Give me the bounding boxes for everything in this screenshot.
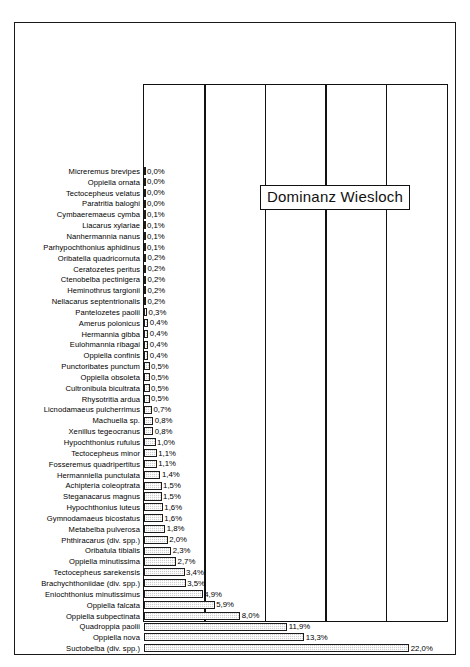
- bar-value-label: 0,5%: [151, 384, 169, 393]
- bar-category-label: Oppiella subpectinata: [0, 612, 140, 621]
- bar: [144, 167, 146, 175]
- bar-value-label: 11,9%: [289, 622, 311, 631]
- bar-value-label: 5,9%: [216, 600, 234, 609]
- bar-category-label: Parhypochthonius aphidinus: [0, 243, 140, 252]
- bar-row: Liacarus xylariae0,1%: [0, 220, 470, 231]
- bar-container: 0,5%: [144, 362, 169, 370]
- bar-row: Eulohmannia ribagai0,4%: [0, 340, 470, 351]
- bar: [144, 514, 163, 522]
- bar-row: Rhysotritia ardua0,5%: [0, 394, 470, 405]
- bar-container: 1,6%: [144, 503, 183, 511]
- bar-container: 0,1%: [144, 243, 165, 251]
- bar-category-label: Oppiella obsoleta: [0, 373, 140, 382]
- bar-container: 0,2%: [144, 265, 166, 273]
- bar: [144, 623, 288, 631]
- bar-row: Metabelba pulverosa1,8%: [0, 524, 470, 535]
- bar: [144, 492, 162, 500]
- bar-container: 0,3%: [144, 308, 167, 316]
- dominance-bar-chart: Dominanz Wiesloch Micreremus brevipes0,0…: [0, 0, 470, 667]
- bar-row: Oribatula tibialis2,3%: [0, 546, 470, 557]
- bar-category-label: Tectocepheus sarekensis: [0, 568, 140, 577]
- bar-container: 1,6%: [144, 514, 183, 522]
- bar-row: Hermannia gibba0,4%: [0, 329, 470, 340]
- bar-category-label: Phthiracarus (div. spp.): [0, 536, 140, 545]
- bar-value-label: 0,1%: [147, 232, 165, 241]
- bar: [144, 308, 148, 316]
- bar-category-label: Oppiella ornata: [0, 178, 140, 187]
- bar-value-label: 1,0%: [157, 438, 175, 447]
- bar-value-label: 0,5%: [151, 362, 169, 371]
- bar-value-label: 22,0%: [411, 644, 433, 653]
- bar: [144, 373, 150, 381]
- bar-container: 22,0%: [144, 644, 433, 652]
- bar-value-label: 1,6%: [164, 503, 182, 512]
- bar-row: Micreremus brevipes0,0%: [0, 166, 470, 177]
- bar-container: 4,9%: [144, 590, 222, 598]
- bar-row: Oppiella subpectinata8,0%: [0, 611, 470, 622]
- bar-value-label: 0,4%: [150, 318, 168, 327]
- bar-category-label: Heminothrus targionii: [0, 286, 140, 295]
- bar-category-label: Rhysotritia ardua: [0, 395, 140, 404]
- bar-value-label: 1,1%: [158, 459, 176, 468]
- bar-row: Gymnodamaeus bicostatus1,6%: [0, 513, 470, 524]
- bar-category-label: Hypochthonius luteus: [0, 503, 140, 512]
- bar-row: Oppiella obsoleta0,5%: [0, 372, 470, 383]
- bar-row: Licnodamaeus pulcherrimus0,7%: [0, 405, 470, 416]
- chart-title: Dominanz Wiesloch: [267, 188, 403, 205]
- bar: [144, 590, 203, 598]
- bar-category-label: Nellacarus septentrionalis: [0, 297, 140, 306]
- bar-value-label: 0,2%: [147, 297, 165, 306]
- bar-row: Ceratozetes peritus0,2%: [0, 264, 470, 275]
- bar-container: 13,3%: [144, 633, 328, 641]
- bar-container: 0,4%: [144, 330, 168, 338]
- bar: [144, 525, 166, 533]
- bar-container: 0,4%: [144, 351, 168, 359]
- bar: [144, 579, 186, 587]
- bar-value-label: 3,5%: [187, 579, 205, 588]
- bar-value-label: 0,4%: [150, 329, 168, 338]
- bar-container: 3,5%: [144, 579, 206, 587]
- bar-container: 0,2%: [144, 286, 166, 294]
- bar-category-label: Oribatella quadricornuta: [0, 254, 140, 263]
- bar-value-label: 13,3%: [306, 633, 328, 642]
- bar-value-label: 0,5%: [151, 373, 169, 382]
- bar: [144, 449, 157, 457]
- bar-value-label: 0,1%: [147, 243, 165, 252]
- bar-row: Oppiella minutissima2,7%: [0, 556, 470, 567]
- bar-category-label: Liacarus xylariae: [0, 221, 140, 230]
- bar-container: 0,0%: [144, 167, 165, 175]
- bar-category-label: Gymnodamaeus bicostatus: [0, 514, 140, 523]
- bar: [144, 254, 146, 262]
- bar-category-label: Eniochthonius minutissimus: [0, 590, 140, 599]
- bar-category-label: Nanhermannia nanus: [0, 232, 140, 241]
- bar-category-label: Suctobelba (div. spp.): [0, 644, 140, 653]
- bar-container: 11,9%: [144, 623, 311, 631]
- bar-value-label: 0,8%: [155, 427, 173, 436]
- bar-category-label: Hermannia gibba: [0, 330, 140, 339]
- bar-row: Oppiella nova13,3%: [0, 632, 470, 643]
- bar-row: Quadroppia paolii11,9%: [0, 621, 470, 632]
- bar-row: Parhypochthonius aphidinus0,1%: [0, 242, 470, 253]
- bar: [144, 221, 146, 229]
- bar-container: 0,8%: [144, 417, 173, 425]
- bar-row: Hypochthonius luteus1,6%: [0, 502, 470, 513]
- bar: [144, 536, 168, 544]
- bar: [144, 351, 149, 359]
- bar-rows: Micreremus brevipes0,0%Oppiella ornata0,…: [0, 166, 470, 654]
- bar-row: Tectocepheus sarekensis3,4%: [0, 567, 470, 578]
- bar-row: Steganacarus magnus1,5%: [0, 491, 470, 502]
- bar-category-label: Oribatula tibialis: [0, 546, 140, 555]
- bar-category-label: Quadroppia paolii: [0, 622, 140, 631]
- bar-row: Eniochthonius minutissimus4,9%: [0, 589, 470, 600]
- bar: [144, 319, 149, 327]
- bar-category-label: Xenillus tegeocranus: [0, 427, 140, 436]
- bar: [144, 276, 146, 284]
- bar: [144, 427, 154, 435]
- bar: [144, 406, 152, 414]
- bar-value-label: 1,5%: [163, 481, 181, 490]
- bar: [144, 417, 154, 425]
- bar-value-label: 0,4%: [150, 340, 168, 349]
- bar-container: 3,4%: [144, 568, 204, 576]
- bar-category-label: Steganacarus magnus: [0, 492, 140, 501]
- bar-category-label: Paratritia baloghi: [0, 199, 140, 208]
